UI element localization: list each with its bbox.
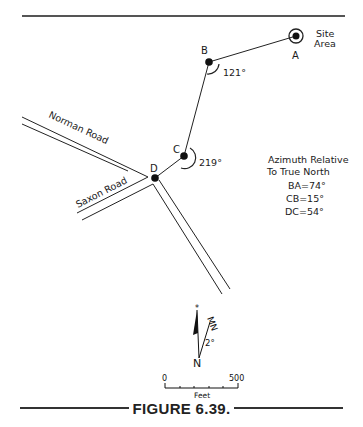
caption-rule-left <box>20 407 129 409</box>
point-c-label: C <box>173 144 180 155</box>
figure-caption: FIGURE 6.39. <box>0 398 363 418</box>
scale-bar: 0 500 Feet <box>162 374 244 400</box>
southeast-road <box>153 180 230 294</box>
angle-c-label: 219° <box>199 157 222 168</box>
saxon-road-label: Saxon Road <box>74 175 129 210</box>
site-label-line2: Area <box>314 38 336 49</box>
caption-rule-right <box>234 407 343 409</box>
declination-label: 2° <box>205 338 215 348</box>
azimuth-value-cb: CB=15° <box>286 193 324 204</box>
site-map-diagram: A B C D Site Area 121° 219° Norman Road … <box>0 0 363 427</box>
azimuth-value-dc: DC=54° <box>285 206 324 217</box>
point-a-label: A <box>292 50 299 61</box>
point-b-marker <box>205 58 213 66</box>
scale-start-label: 0 <box>162 374 167 383</box>
azimuth-title-line1: Azimuth Relative <box>268 154 349 165</box>
angle-b-label: 121° <box>223 67 246 78</box>
true-north-label: N <box>193 357 201 370</box>
point-a-marker <box>293 33 300 40</box>
azimuth-title-line2: To True North <box>266 166 330 177</box>
scale-end-label: 500 <box>229 374 244 383</box>
point-b-label: B <box>201 45 208 56</box>
point-d-label: D <box>150 163 158 174</box>
caption-text: FIGURE 6.39. <box>133 400 231 417</box>
point-d-marker <box>151 174 159 182</box>
point-c-marker <box>180 152 188 160</box>
norman-road-label: Norman Road <box>47 109 110 146</box>
north-arrow-icon: * MN 2° N <box>193 304 219 370</box>
azimuth-value-ba: BA=74° <box>288 180 326 191</box>
